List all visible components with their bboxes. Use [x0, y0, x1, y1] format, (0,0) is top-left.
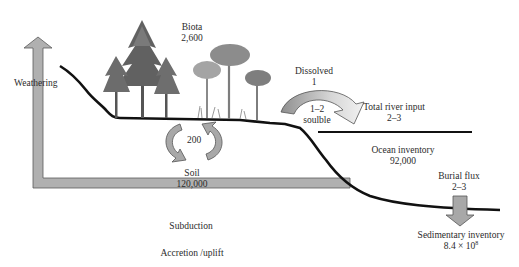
ocean-label: Ocean inventory 92,000 [365, 145, 441, 167]
exchange-value-label: 200 [182, 135, 206, 146]
biota-value: 2,600 [172, 33, 212, 44]
conifer-trees-icon [103, 20, 180, 118]
biota-name: Biota [172, 22, 212, 33]
subduction-label: Subduction [166, 221, 216, 232]
ocean-name: Ocean inventory [365, 145, 441, 156]
sediment-exponent: 8 [475, 240, 478, 246]
weathering-text: Weathering [14, 78, 58, 89]
accretion-text: Accretion /uplift [155, 248, 229, 259]
burial-flux-arrow-icon [446, 196, 474, 226]
subduction-text: Subduction [166, 221, 216, 232]
sediment-name: Sedimentary inventory [406, 230, 516, 241]
weathering-label: Weathering [14, 78, 58, 89]
soluble-value: 1–2 [300, 104, 334, 115]
burial-flux-value: 2–3 [430, 182, 488, 193]
soil-value: 120,000 [170, 179, 214, 190]
river-input-value: 2–3 [354, 113, 434, 124]
ocean-value: 92,000 [365, 156, 441, 167]
dissolved-label: Dissolved 1 [291, 66, 337, 88]
river-input-label: Total river input 2–3 [354, 102, 434, 124]
soluble-text: soulble [300, 115, 334, 126]
soil-name: Soil [170, 168, 214, 179]
dissolved-text: Dissolved [291, 66, 337, 77]
soluble-label: 1–2 soulble [300, 104, 334, 126]
exchange-value: 200 [182, 135, 206, 146]
dissolved-value: 1 [291, 77, 337, 88]
burial-flux-text: Burial flux [430, 171, 488, 182]
biota-label: Biota 2,600 [172, 22, 212, 44]
river-input-text: Total river input [354, 102, 434, 113]
sediment-value: 8.4 × 108 [406, 241, 516, 252]
sediment-label: Sedimentary inventory 8.4 × 108 [406, 230, 516, 252]
deciduous-trees-icon [193, 44, 271, 120]
soil-label: Soil 120,000 [170, 168, 214, 190]
cycle-diagram [0, 0, 519, 267]
accretion-label: Accretion /uplift [155, 248, 229, 259]
burial-flux-label: Burial flux 2–3 [430, 171, 488, 193]
